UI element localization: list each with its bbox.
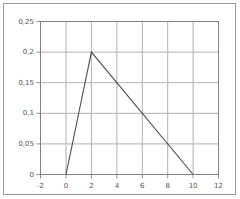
ytick-label-0: 0 <box>8 171 34 179</box>
xtick-label-2: 2 <box>81 182 102 190</box>
ytick-label-0.25: 0,25 <box>8 18 34 26</box>
ytick-label-0.15: 0,15 <box>8 79 34 87</box>
plot-canvas <box>0 0 240 199</box>
xtick-label-10: 10 <box>183 182 204 190</box>
xtick-label-6: 6 <box>132 182 153 190</box>
xtick-label-4: 4 <box>106 182 127 190</box>
xtick-label-0: 0 <box>56 182 77 190</box>
ytick-label-0.1: 0,1 <box>8 109 34 117</box>
x-axis-ticks <box>41 175 219 179</box>
y-axis-ticks <box>37 22 41 175</box>
xtick-label-12: 12 <box>208 182 229 190</box>
xtick-label-8: 8 <box>157 182 178 190</box>
xtick-label--2: -2 <box>30 182 51 190</box>
ytick-label-0.05: 0,05 <box>8 140 34 148</box>
chart-figure: 0,25 0,2 0,15 0,1 0,05 0 -2 0 2 4 6 8 10… <box>0 0 240 199</box>
ytick-label-0.2: 0,2 <box>8 48 34 56</box>
